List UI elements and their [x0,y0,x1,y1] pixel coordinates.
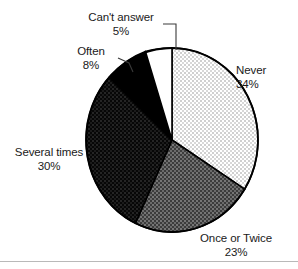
slice-label-several-times-pct: 30% [4,160,94,174]
pie-chart-figure: Can't answer 5% Often 8% Never 34% Sever… [0,0,298,269]
slice-label-several-times-name: Several times [15,146,83,158]
slice-label-never-pct: 34% [236,78,292,92]
slice-label-once-or-twice-pct: 23% [186,246,286,260]
slice-label-never-name: Never [236,64,266,76]
bottom-divider-rule [0,261,298,262]
slice-label-several-times: Several times 30% [4,146,94,173]
slice-label-often-pct: 8% [60,59,122,73]
slice-label-often: Often 8% [60,45,122,72]
slice-label-cant-answer-pct: 5% [73,25,169,39]
slice-label-often-name: Often [77,45,105,57]
slice-label-cant-answer: Can't answer 5% [73,11,169,38]
slice-label-never: Never 34% [236,64,292,91]
slice-label-cant-answer-name: Can't answer [88,11,154,23]
pie-chart-canvas [0,0,298,269]
slice-label-once-or-twice-name: Once or Twice [200,232,272,244]
slice-label-once-or-twice: Once or Twice 23% [186,232,286,259]
